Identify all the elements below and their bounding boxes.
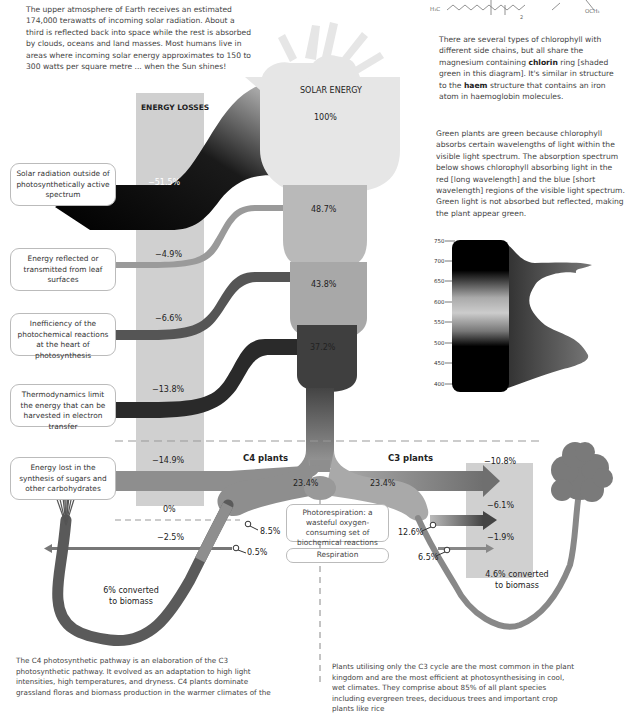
c4-respiration-loss: −2.5%: [157, 533, 184, 542]
intro-paragraph: The upper atmosphere of Earth receives a…: [26, 4, 254, 72]
formula-h3c: H₃C: [430, 6, 440, 12]
loss-value: −13.8%: [152, 385, 184, 394]
loss-value: −14.9%: [152, 456, 184, 465]
loss-box-thermodynamics: Thermodynamics limit the energy that can…: [10, 384, 116, 427]
formula-och3: OCH₃: [585, 8, 600, 14]
c3-value: 23.4%: [370, 479, 395, 488]
axis-tick: 400: [434, 381, 445, 387]
loss-value: −51.5%: [148, 178, 180, 187]
loss-value: −4.9%: [155, 250, 182, 259]
loss-box-leaf-reflection: Energy reflected or transmitted from lea…: [10, 248, 116, 291]
axis-tick: 500: [434, 340, 445, 346]
axis-tick: 450: [434, 360, 445, 366]
c3-after-photorespiration: 12.6%: [398, 528, 423, 537]
stage-48-7: [283, 185, 367, 270]
chlorophyll-structure-icon: [447, 0, 594, 15]
stage-value: 43.8%: [311, 280, 336, 289]
loss-column-left: [136, 93, 204, 506]
energy-losses-header: ENERGY LOSSES: [141, 103, 209, 112]
axis-tick: 550: [434, 319, 445, 325]
solar-energy-title: SOLAR ENERGY: [300, 86, 362, 95]
loss-value: −6.6%: [155, 314, 182, 323]
stem-to-branches: [306, 388, 334, 468]
absorption-spectrum-chart: [445, 240, 592, 392]
c4-photorespiration-loss: 0%: [163, 505, 176, 514]
c4-after-photorespiration: 8.5%: [260, 527, 280, 536]
loss-box-photochemical: Inefficiency of the photochemical reacti…: [10, 313, 116, 356]
c3-loss-value: −10.8%: [484, 457, 516, 466]
c4-biomass-stalk: [58, 505, 228, 641]
flow-c3-photorespiration-loss: [430, 515, 483, 526]
loss-box-solar-radiation: Solar radiation outside of photosyntheti…: [10, 163, 116, 206]
tree-icon: [551, 442, 613, 502]
green-plants-note: Green plants are green because chlorophy…: [436, 128, 626, 219]
stage-37-2: [297, 325, 357, 392]
c4-after-respiration: 0.5%: [247, 548, 267, 557]
c4-note: The C4 photosynthetic pathway is an elab…: [16, 656, 278, 698]
axis-tick: 650: [434, 278, 445, 284]
axis-tick: 700: [434, 258, 445, 264]
loss-box-synthesis: Energy lost in the synthesis of sugars a…: [10, 457, 116, 500]
c3-biomass-label: 4.6% converted to biomass: [482, 569, 552, 591]
c3-after-respiration: 6.5%: [418, 553, 438, 562]
axis-tick: 750: [434, 238, 445, 244]
c4-plants-title: C4 plants: [243, 453, 288, 463]
respiration-box: Respiration: [286, 548, 389, 563]
formula-subscript: 2: [520, 14, 523, 20]
c3-loss-value: −6.1%: [487, 501, 514, 510]
solar-energy-value: 100%: [314, 113, 337, 122]
c3-note: Plants utilising only the C3 cycle are t…: [332, 662, 577, 715]
chlorophyll-note: There are several types of chlorophyll w…: [439, 34, 619, 102]
c4-value: 23.4%: [293, 479, 318, 488]
photorespiration-box: Photorespiration: a wasteful oxygen-cons…: [286, 504, 389, 542]
axis-tick: 600: [434, 299, 445, 305]
stage-value: 48.7%: [311, 205, 336, 214]
c3-loss-value: −1.9%: [487, 533, 514, 542]
c4-biomass-label: 6% converted to biomass: [100, 585, 162, 607]
stage-value: 37.2%: [310, 343, 335, 352]
c3-plants-title: C3 plants: [388, 453, 433, 463]
